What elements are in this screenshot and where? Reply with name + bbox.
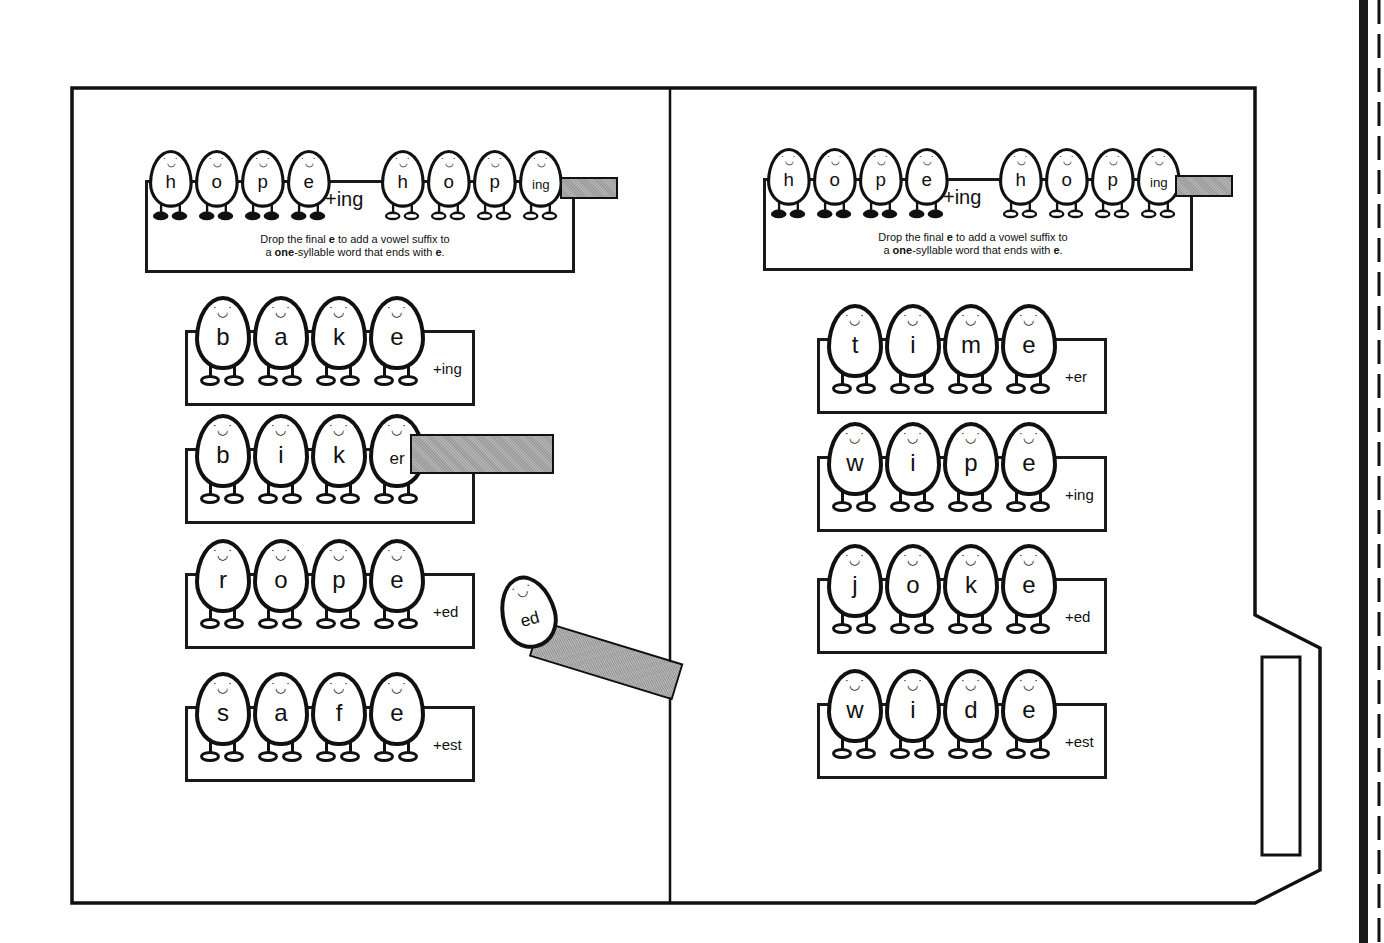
clothespin-clip[interactable] (410, 434, 554, 474)
egg-foot (856, 748, 876, 759)
egg-letter: m (943, 332, 999, 358)
smiley-face-icon: ˙◡˙ (999, 155, 1043, 165)
suffix-label: +est (1065, 733, 1094, 750)
egg-foot (948, 623, 968, 634)
smiley-face-icon: ˙◡˙ (241, 157, 285, 167)
egg-foot (1114, 210, 1130, 219)
egg-character: ˙◡˙e (1001, 669, 1057, 743)
smiley-face-icon: ˙◡˙ (253, 305, 309, 318)
egg-character: ˙◡˙p (311, 539, 367, 613)
egg-foot (1030, 623, 1050, 634)
clothespin-clip[interactable] (1175, 175, 1233, 197)
egg-letter: k (311, 324, 367, 350)
egg-character: ˙◡˙k (311, 414, 367, 488)
egg-letter: d (943, 697, 999, 723)
egg-foot (972, 748, 992, 759)
egg-foot (972, 383, 992, 394)
rule-line-1: Drop the final e to add a vowel suffix t… (878, 231, 1067, 243)
word-strip: ˙◡˙t˙◡˙i˙◡˙m˙◡˙e+er (817, 300, 1117, 420)
egg-letter: w (827, 450, 883, 476)
smiley-face-icon: ˙◡˙ (369, 548, 425, 561)
word-strip: ˙◡˙j˙◡˙o˙◡˙k˙◡˙e+ed (817, 540, 1117, 660)
smiley-face-icon: ˙◡˙ (859, 155, 903, 165)
word-strip: ˙◡˙w˙◡˙i˙◡˙p˙◡˙e+ing (817, 418, 1117, 538)
rule-example-panel: ˙◡˙h˙◡˙o˙◡˙p˙◡˙e+ing˙◡˙h˙◡˙o˙◡˙p˙◡˙ingDr… (145, 150, 625, 275)
egg-letter: h (149, 172, 193, 192)
egg-letter: i (253, 442, 309, 468)
egg-character: ˙◡˙j (827, 544, 883, 618)
smiley-face-icon: ˙◡˙ (369, 681, 425, 694)
egg-foot (172, 212, 188, 221)
smiley-face-icon: ˙◡˙ (1001, 313, 1057, 326)
egg-letter: k (943, 572, 999, 598)
egg-foot (264, 212, 280, 221)
egg-letter: e (369, 324, 425, 350)
smiley-face-icon: ˙◡˙ (885, 313, 941, 326)
egg-character: ˙◡˙w (827, 669, 883, 743)
egg-foot (914, 623, 934, 634)
smiley-face-icon: ˙◡˙ (195, 548, 251, 561)
smiley-face-icon: ˙◡˙ (1001, 431, 1057, 444)
smiley-face-icon: ˙◡˙ (1091, 155, 1135, 165)
egg-character: ˙◡˙o (253, 539, 309, 613)
egg-foot (856, 623, 876, 634)
smiley-face-icon: ˙◡˙ (427, 157, 471, 167)
egg-character: ˙◡˙t (827, 304, 883, 378)
egg-foot (224, 375, 244, 386)
egg-foot (856, 501, 876, 512)
egg-foot (909, 210, 925, 219)
egg-foot (1006, 383, 1026, 394)
egg-foot (948, 383, 968, 394)
egg-character: ˙◡˙s (195, 672, 251, 746)
egg-foot (771, 210, 787, 219)
egg-foot (863, 210, 879, 219)
egg-letter: r (195, 567, 251, 593)
rule-text: Drop the final e to add a vowel suffix t… (185, 233, 525, 259)
egg-foot (199, 212, 215, 221)
egg-foot (882, 210, 898, 219)
plus-suffix-label: +ing (325, 188, 363, 211)
smiley-face-icon: ˙◡˙ (1045, 155, 1089, 165)
smiley-face-icon: ˙◡˙ (1137, 155, 1181, 165)
loose-suffix-egg[interactable]: ˙◡˙ed (500, 575, 700, 695)
egg-character: ˙◡˙i (253, 414, 309, 488)
egg-foot (200, 618, 220, 629)
egg-letter: h (381, 172, 425, 192)
egg-letter: i (885, 332, 941, 358)
egg-character: ˙◡˙p (859, 148, 903, 206)
egg-letter: o (195, 172, 239, 192)
egg-character: ˙◡˙h (149, 150, 193, 208)
egg-letter: o (427, 172, 471, 192)
egg-foot (890, 748, 910, 759)
egg-foot (890, 501, 910, 512)
smiley-face-icon: ˙◡˙ (827, 431, 883, 444)
egg-foot (258, 493, 278, 504)
smiley-face-icon: ˙◡˙ (885, 553, 941, 566)
smiley-face-icon: ˙◡˙ (943, 553, 999, 566)
egg-foot (340, 751, 360, 762)
egg-foot (282, 375, 302, 386)
egg-foot (398, 493, 418, 504)
smiley-face-icon: ˙◡˙ (827, 313, 883, 326)
clothespin-clip[interactable] (560, 177, 618, 199)
egg-character: ˙◡˙h (381, 150, 425, 208)
egg-foot (856, 383, 876, 394)
egg-foot (310, 212, 326, 221)
egg-foot (948, 748, 968, 759)
egg-foot (340, 493, 360, 504)
egg-foot (914, 748, 934, 759)
egg-foot (496, 212, 512, 221)
smiley-face-icon: ˙◡˙ (253, 548, 309, 561)
egg-letter: h (767, 170, 811, 190)
egg-letter: p (859, 170, 903, 190)
plus-suffix-label: +ing (943, 186, 981, 209)
egg-character: ˙◡˙a (253, 296, 309, 370)
egg-letter: e (369, 567, 425, 593)
smiley-face-icon: ˙◡˙ (195, 423, 251, 436)
egg-foot (790, 210, 806, 219)
egg-letter: e (1001, 450, 1057, 476)
egg-foot (914, 501, 934, 512)
suffix-label: +ing (1065, 486, 1094, 503)
smiley-face-icon: ˙◡˙ (195, 157, 239, 167)
egg-foot (398, 618, 418, 629)
